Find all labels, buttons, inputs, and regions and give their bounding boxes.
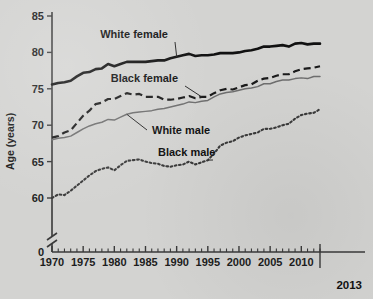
series-label-black-female: Black female <box>111 72 178 84</box>
y-tick-label-70: 70 <box>32 119 44 131</box>
x-tick-label-1975: 1975 <box>71 256 95 268</box>
x-tick-label-1980: 1980 <box>102 256 126 268</box>
series-label-white-female: White female <box>100 28 168 40</box>
series-label-white-male: White male <box>152 124 210 136</box>
life-expectancy-chart: Age (years) 0606570758085 19701975198019… <box>0 0 373 299</box>
y-tick-label-75: 75 <box>32 83 44 95</box>
chart-canvas: Age (years) 0606570758085 19701975198019… <box>0 0 373 299</box>
leader-line-white-female <box>175 42 177 57</box>
x-tick-label-1970: 1970 <box>40 256 64 268</box>
x-tick-label-1990: 1990 <box>164 256 188 268</box>
series-line-white-female <box>52 43 320 84</box>
x-tick-label-1985: 1985 <box>133 256 157 268</box>
leader-line-white-male <box>127 114 147 130</box>
y-tick-label-60: 60 <box>32 192 44 204</box>
series-label-black-male: Black male <box>158 146 215 158</box>
x-tick-label-2000: 2000 <box>227 256 251 268</box>
x-tick-label-2010: 2010 <box>289 256 313 268</box>
x-axis-tick-labels: 197019751980198519901995200020052010 <box>40 256 314 268</box>
x-tick-label-1995: 1995 <box>196 256 220 268</box>
y-tick-label-65: 65 <box>32 156 44 168</box>
y-tick-label-80: 80 <box>32 46 44 58</box>
x-axis-end-label: 2013 <box>336 279 362 291</box>
y-axis-tick-labels: 0606570758085 <box>32 10 44 258</box>
series-annotations: White femaleBlack femaleWhite maleBlack … <box>100 28 215 160</box>
y-tick-label-85: 85 <box>32 10 44 22</box>
y-axis-title: Age (years) <box>4 113 16 170</box>
data-series-group <box>52 43 320 198</box>
leader-line-black-female <box>185 86 202 97</box>
x-tick-label-2005: 2005 <box>258 256 282 268</box>
